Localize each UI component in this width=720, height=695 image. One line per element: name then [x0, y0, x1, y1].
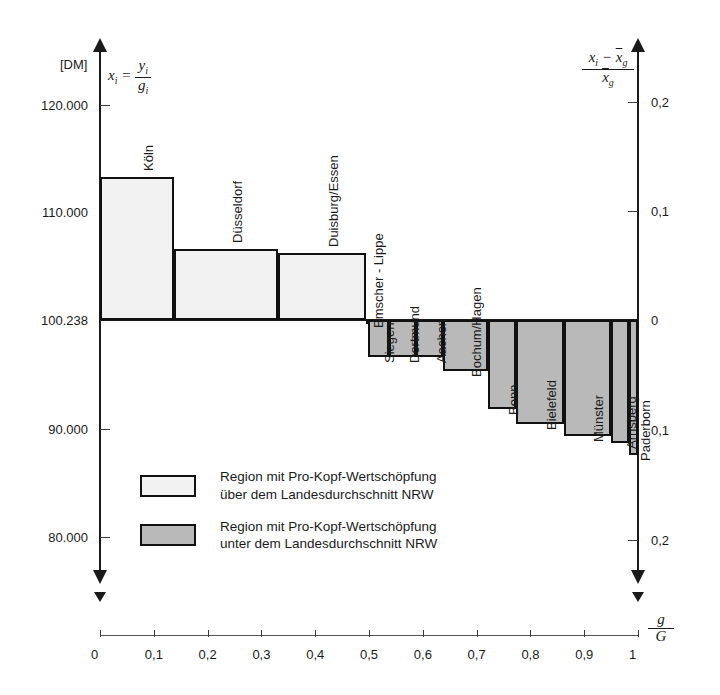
x-tick-0,2	[208, 630, 209, 637]
bar-label-bochum-hagen: Bochum/Hagen	[470, 287, 483, 377]
y-axis-right-line	[637, 50, 639, 572]
bar-label-duisburg-essen: Duisburg/Essen	[327, 155, 340, 247]
bar-label-paderborn: Paderborn	[639, 400, 652, 461]
y2-tick-label-0.1-neg: 0,1	[651, 424, 669, 437]
x-axis-end-marker-icon	[632, 592, 644, 602]
legend-swatch-below-icon	[140, 524, 196, 546]
chart-canvas: [DM] xi = yi gi 120.000 110.000 100.238 …	[0, 0, 720, 695]
bar-label-siegen: Siegen	[383, 322, 396, 362]
y2-tick-label-0.2-neg: 0,2	[651, 534, 669, 547]
bar-label-arnsberg: Arnsberg	[625, 396, 638, 449]
legend-item-below: Region mit Pro-Kopf-Wertschöpfung unter …	[140, 518, 437, 554]
x-tick-1	[638, 630, 639, 637]
bar-label-bonn: Bonn	[507, 385, 520, 415]
legend-above-line2: über dem Landesdurchschnitt NRW	[220, 486, 437, 504]
x-tick-0,9	[584, 630, 585, 637]
y2-tick-0.2-neg	[628, 540, 638, 541]
y-tick-label-110000: 110.000	[0, 206, 88, 219]
y2-tick-0.2-pos	[628, 102, 638, 103]
legend-item-above: Region mit Pro-Kopf-Wertschöpfung über d…	[140, 468, 437, 504]
x-tick-label-0,8: 0,8	[521, 648, 539, 661]
x-tick-label-0,3: 0,3	[252, 648, 270, 661]
x-tick-0,6	[423, 630, 424, 637]
y-tick-90000	[100, 429, 110, 430]
legend-above-line1: Region mit Pro-Kopf-Wertschöpfung	[220, 468, 437, 486]
y2-tick-label-0: 0	[651, 314, 658, 327]
legend-swatch-above-icon	[140, 475, 196, 497]
legend-below-line2: unter dem Landesdurchschnitt NRW	[220, 535, 437, 553]
x-tick-0,8	[530, 630, 531, 637]
x-axis-title-den: G	[648, 628, 674, 645]
x-tick-label-0,6: 0,6	[414, 648, 432, 661]
x-tick-0	[100, 630, 101, 637]
y2-tick-label-0.1-pos: 0,1	[651, 205, 669, 218]
x-tick-0,7	[477, 630, 478, 637]
y-tick-label-120000: 120.000	[0, 99, 88, 112]
x-tick-label-0: 0	[91, 648, 98, 661]
x-axis-title-num: g	[648, 612, 674, 628]
y-axis-unit-label: [DM]	[60, 58, 87, 71]
x-axis-start-marker-icon	[94, 592, 106, 602]
y-tick-label-80000: 80.000	[0, 531, 88, 544]
bar-label-aachen: Aachen	[435, 319, 448, 363]
bar-k-ln[interactable]	[100, 177, 174, 320]
x-tick-label-0,2: 0,2	[199, 648, 217, 661]
x-axis-title: g G	[648, 612, 674, 645]
y-tick-label-90000: 90.000	[0, 423, 88, 436]
x-tick-label-0,1: 0,1	[145, 648, 163, 661]
x-tick-label-0,5: 0,5	[360, 648, 378, 661]
legend: Region mit Pro-Kopf-Wertschöpfung über d…	[140, 468, 437, 567]
x-tick-label-1: 1	[629, 648, 636, 661]
y-axis-formula: xi = yi gi	[108, 58, 151, 96]
bar-label-emscher-lippe: Emscher - Lippe	[372, 233, 385, 328]
y-tick-80000	[100, 537, 110, 538]
bar-label-dortmund: Dortmund	[408, 306, 421, 363]
x-tick-label-0,9: 0,9	[575, 648, 593, 661]
bar-label-m-nster: Münster	[592, 395, 605, 442]
bar-d-sseldorf[interactable]	[174, 249, 277, 320]
bar-label-d-sseldorf: Düsseldorf	[231, 181, 244, 243]
y-axis-right-arrow-bottom	[631, 570, 645, 584]
x-tick-0,3	[261, 630, 262, 637]
legend-text-above: Region mit Pro-Kopf-Wertschöpfung über d…	[220, 468, 437, 504]
bar-label-k-ln: Köln	[142, 145, 155, 171]
y2-tick-label-0.2-pos: 0,2	[651, 96, 669, 109]
y-tick-120000	[100, 105, 110, 106]
x-tick-label-0,4: 0,4	[306, 648, 324, 661]
y-axis-right-formula: xi − xg xg	[582, 50, 634, 88]
y2-tick-0.1-pos	[628, 211, 638, 212]
legend-below-line1: Region mit Pro-Kopf-Wertschöpfung	[220, 518, 437, 536]
x-tick-label-0,7: 0,7	[468, 648, 486, 661]
y-axis-left-arrow-bottom	[93, 570, 107, 584]
x-tick-0,4	[315, 630, 316, 637]
bar-label-bielefeld: Bielefeld	[545, 380, 558, 430]
bar-duisburg-essen[interactable]	[278, 253, 367, 320]
x-tick-0,1	[154, 630, 155, 637]
legend-text-below: Region mit Pro-Kopf-Wertschöpfung unter …	[220, 518, 437, 554]
x-tick-0,5	[369, 630, 370, 637]
y-tick-label-100238: 100.238	[0, 314, 88, 327]
